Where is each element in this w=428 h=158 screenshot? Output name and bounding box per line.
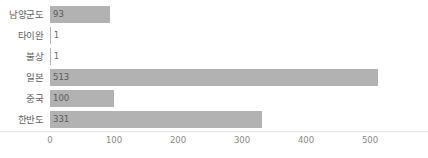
x-tick-label: 400 [298,134,314,146]
category-label: 타이완 [0,30,44,41]
bar-track: 93 [50,4,428,25]
bar[interactable] [50,6,110,23]
bar[interactable] [50,69,378,86]
bar-row[interactable]: 타이완 1 [0,25,428,46]
category-label: 남양군도 [0,9,44,20]
x-tick-label: 100 [106,134,122,146]
category-label: 일본 [0,72,44,83]
bar-track: 1 [50,46,428,67]
bar[interactable] [50,48,51,65]
bar-chart: 남양군도 93 타이완 1 불상 1 일본 [0,0,428,158]
x-tick-label: 200 [170,134,186,146]
bar-row[interactable]: 일본 513 [0,67,428,88]
bar-row[interactable]: 한반도 331 [0,109,428,130]
bar-row[interactable]: 중국 100 [0,88,428,109]
x-tick-label: 0 [47,134,52,146]
bar[interactable] [50,111,262,128]
bar-value-label: 1 [54,49,59,64]
bar-row[interactable]: 불상 1 [0,46,428,67]
bar-track: 331 [50,109,428,130]
bar-track: 513 [50,67,428,88]
category-label: 한반도 [0,114,44,125]
plot-area: 남양군도 93 타이완 1 불상 1 일본 [0,4,428,130]
bar[interactable] [50,27,51,44]
bar-track: 100 [50,88,428,109]
x-tick-label: 300 [234,134,250,146]
bar-value-label: 1 [54,28,59,43]
bar[interactable] [50,90,114,107]
category-label: 불상 [0,51,44,62]
category-label: 중국 [0,93,44,104]
bar-row[interactable]: 남양군도 93 [0,4,428,25]
x-axis-line [0,131,428,132]
x-tick-label: 500 [362,134,378,146]
x-axis-tick-labels: 0 100 200 300 400 500 [0,134,428,150]
bar-track: 1 [50,25,428,46]
